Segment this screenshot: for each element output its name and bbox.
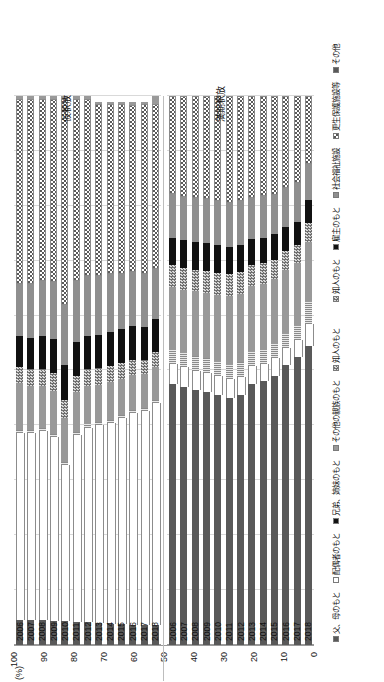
bar-segment: [129, 410, 136, 413]
legend-swatch-icon: [333, 133, 339, 139]
bar-segment: [27, 338, 34, 370]
legend-swatch-icon: [333, 518, 339, 524]
bar-segment: [84, 386, 91, 424]
bar-segment: [107, 382, 114, 420]
bar-segment: [107, 420, 114, 423]
value-axis-tick: 10: [279, 652, 289, 662]
bar-segment: [39, 386, 46, 427]
bar-segment: [214, 245, 221, 272]
year-label: 2008: [190, 622, 200, 641]
bar-segment: [39, 428, 46, 431]
legend-parole: 知人のもと雇主のもと社会福祉施設更生保護施設等その他: [330, 44, 341, 302]
bar-segment: [226, 379, 235, 398]
bar-segment: [294, 263, 301, 326]
bar-segment: [180, 367, 189, 387]
bar-segment: [95, 368, 102, 384]
bar-segment: [16, 383, 23, 430]
bar-segment: [294, 326, 301, 340]
panel-title-fullterm: 満期釈放: [214, 86, 227, 122]
bar-segment: [50, 434, 57, 437]
bar-segment: [118, 379, 125, 415]
bar-segment: [226, 203, 233, 247]
legend-swatch-icon: [333, 577, 339, 583]
year-label: 2006: [168, 622, 178, 641]
year-label: 2009: [49, 622, 59, 641]
year-label: 2017: [139, 622, 149, 641]
bar-segment: [237, 245, 244, 271]
bar-segment: [282, 96, 289, 188]
bar-segment: [169, 364, 178, 384]
bar-segment: [214, 376, 223, 395]
legend-item: 父、母のもと: [330, 592, 341, 642]
bar-segment: [16, 284, 23, 336]
bar-segment: [129, 105, 136, 272]
bar-segment: [95, 102, 102, 105]
bar-segment: [27, 96, 34, 99]
rotated-chart-frame: (%) 1009080706050403020100 2006200720082…: [0, 0, 384, 682]
bar-segment: [27, 386, 34, 430]
bar-segment: [192, 96, 199, 198]
bar-segment: [152, 400, 159, 403]
year-label: 2018: [303, 622, 313, 641]
bar-segment: [282, 227, 289, 251]
bar-segment: [84, 99, 91, 276]
bar-segment: [214, 201, 221, 245]
legend-item: 雇主のもと: [330, 207, 341, 250]
bar-segment: [248, 198, 255, 239]
bar-segment: [260, 263, 267, 284]
bar-segment: [169, 287, 176, 350]
bar-segment: [61, 418, 68, 462]
bar-segment: [271, 279, 278, 344]
value-axis-tick: 80: [69, 652, 79, 662]
axis-unit-label: (%): [14, 666, 24, 680]
year-label: 2010: [60, 622, 70, 641]
bar-segment: [192, 291, 199, 356]
year-label: 2008: [37, 622, 47, 641]
bar-segment: [107, 332, 114, 366]
bar-segment: [141, 104, 148, 274]
bar-segment: [294, 96, 301, 183]
bar-segment: [192, 270, 199, 292]
year-labels-bottom: 2006200720082009201020112012201320142015…: [167, 553, 314, 645]
bar-segment: [95, 276, 102, 335]
bar-segment: [16, 99, 23, 283]
bar-segment: [214, 295, 221, 362]
bar-segment: [27, 369, 34, 385]
year-label: 2012: [236, 622, 246, 641]
bar-segment: [237, 362, 244, 376]
bar-segment: [152, 352, 159, 366]
bar-segment: [248, 286, 255, 352]
year-label: 2006: [15, 622, 25, 641]
bar-segment: [271, 358, 280, 376]
legend-label: その他の親族のもと: [330, 380, 341, 443]
bar-segment: [16, 367, 23, 383]
bar-segment: [237, 96, 244, 201]
bar-segment: [16, 336, 23, 367]
bar-segment: [84, 369, 91, 385]
bar-segment: [260, 238, 267, 263]
bar-segment: [282, 270, 289, 334]
bar-segment: [203, 293, 210, 359]
bar-segment: [118, 102, 125, 105]
bar-segment: [95, 335, 102, 368]
bar-segment: [305, 223, 312, 242]
bar-segment: [203, 373, 212, 393]
bar-segment: [180, 353, 187, 367]
bar-segment: [141, 327, 148, 360]
bar-segment: [180, 290, 187, 353]
panel-divider: [163, 96, 164, 681]
panel-parole: 2006200720082009201020112012201320142015…: [14, 96, 161, 645]
bar-segment: [152, 104, 159, 269]
legend-item: 社会福祉施設: [330, 148, 341, 198]
bar-segment: [305, 242, 312, 302]
legend-swatch-icon: [333, 244, 339, 250]
bar-segment: [73, 96, 80, 99]
legend-swatch-icon: [333, 636, 339, 642]
panel-title-parole: 仮釈放: [60, 95, 73, 122]
bar-segment: [84, 276, 91, 336]
legend-label: 配偶者のもと: [330, 533, 341, 575]
legend-item: 知人のもと: [330, 328, 341, 371]
bar-segment: [203, 358, 210, 372]
legend-label: 雇主のもと: [330, 207, 341, 242]
chart-canvas: (%) 1009080706050403020100 2006200720082…: [0, 0, 384, 682]
